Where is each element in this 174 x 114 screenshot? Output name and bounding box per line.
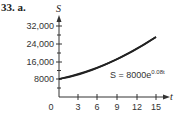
x-tick-label: 0 [48,102,53,112]
x-tick-label: 15 [151,102,161,112]
y-axis-arrow-icon [57,15,62,22]
exponential-growth-chart: 32,000 24,000 16,000 8000 0 3 6 9 12 15 … [0,0,174,114]
x-axis-label: t [170,91,173,102]
x-tick-label: 12 [132,102,142,112]
x-tick-label: 3 [75,102,80,112]
y-tick-label: 8000 [34,74,54,84]
y-tick-label: 24,000 [26,39,54,49]
y-axis-label: S [56,3,61,14]
y-tick-label: 32,000 [26,21,54,31]
x-axis-arrow-icon [163,95,170,100]
x-tick-label: 9 [114,102,119,112]
x-tick-label: 6 [94,102,99,112]
y-tick-label: 16,000 [26,57,54,67]
curve-equation: S = 8000e0.08t [110,69,165,80]
